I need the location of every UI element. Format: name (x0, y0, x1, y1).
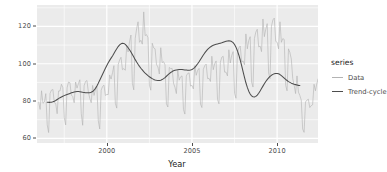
legend-key-line-icon (331, 72, 344, 83)
x-tick-mark-2010 (277, 143, 278, 146)
y-tick-label-120: 120 (18, 22, 31, 30)
y-axis-ticks: 6080100120 (0, 0, 31, 172)
legend-item-label: Trend-cycle (348, 88, 387, 96)
legend-key-line-icon (331, 86, 344, 97)
x-tick-label-2005: 2005 (183, 147, 200, 155)
legend-title: series (331, 58, 387, 67)
series-path-trend-cycle (47, 41, 300, 103)
y-tick-mark-120 (33, 26, 36, 27)
legend-item-label: Data (348, 74, 364, 82)
y-tick-mark-100 (33, 63, 36, 64)
x-tick-label-2010: 2010 (269, 147, 286, 155)
legend: series DataTrend-cycle (331, 58, 387, 100)
legend-items: DataTrend-cycle (331, 72, 387, 97)
legend-swatch (332, 77, 343, 78)
y-tick-label-60: 60 (22, 134, 31, 142)
plot-panel (37, 5, 318, 143)
legend-item-data[interactable]: Data (331, 72, 387, 83)
x-tick-label-2000: 2000 (98, 147, 115, 155)
x-tick-mark-2000 (107, 143, 108, 146)
series-path-data (39, 12, 318, 133)
data-layer (37, 5, 318, 143)
legend-item-trend-cycle[interactable]: Trend-cycle (331, 86, 387, 97)
y-tick-mark-80 (33, 101, 36, 102)
chart-figure: New orders index 6080100120 200020052010… (0, 0, 387, 172)
y-tick-label-80: 80 (22, 97, 31, 105)
legend-swatch (332, 91, 343, 92)
x-axis-label: Year (168, 159, 185, 169)
y-tick-label-100: 100 (18, 60, 31, 68)
x-tick-mark-2005 (192, 143, 193, 146)
y-tick-mark-60 (33, 138, 36, 139)
